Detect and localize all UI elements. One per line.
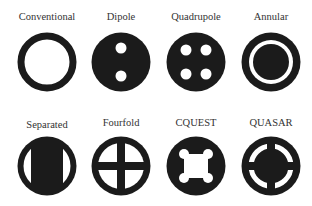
pattern-quadrupole: Quadrupole <box>157 0 235 100</box>
conventional-pupil-icon <box>17 32 77 92</box>
pattern-label: Conventional <box>8 11 86 22</box>
pattern-quasar: QUASAR <box>232 106 310 206</box>
pattern-label: Separated <box>8 119 86 130</box>
dipole-pupil-icon <box>91 32 151 92</box>
pattern-label: Annular <box>232 11 310 22</box>
pattern-conventional: Conventional <box>8 0 86 100</box>
pattern-label: CQUEST <box>157 117 235 128</box>
fourfold-pupil-icon <box>91 136 151 196</box>
quadrupole-pupil-icon <box>166 32 226 92</box>
separated-pupil-icon <box>17 136 77 196</box>
pattern-annular: Annular <box>232 0 310 100</box>
pattern-label: Fourfold <box>82 117 160 128</box>
pattern-separated: Separated <box>8 106 86 206</box>
pattern-label: QUASAR <box>232 117 310 128</box>
pattern-cquest: CQUEST <box>157 106 235 206</box>
quasar-pupil-icon <box>241 136 301 196</box>
pattern-label: Dipole <box>82 11 160 22</box>
pattern-dipole: Dipole <box>82 0 160 100</box>
cquest-pupil-icon <box>166 136 226 196</box>
pattern-fourfold: Fourfold <box>82 106 160 206</box>
annular-pupil-icon <box>241 32 301 92</box>
pattern-label: Quadrupole <box>157 11 235 22</box>
